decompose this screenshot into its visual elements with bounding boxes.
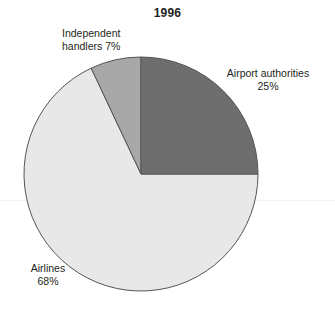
slice-label-airlines-line2: 68% xyxy=(6,275,90,288)
pie-chart-figure: 1996 Independent handlers 7% Airport aut… xyxy=(0,0,335,310)
slice-label-independent-handlers-line1: Independent xyxy=(62,27,120,40)
slice-label-independent-handlers: Independent handlers 7% xyxy=(62,27,120,53)
slice-label-airport-authorities-line2: 25% xyxy=(204,80,332,93)
slice-label-airlines-line1: Airlines xyxy=(6,262,90,275)
slice-label-airlines: Airlines 68% xyxy=(6,262,90,288)
slice-label-airport-authorities-line1: Airport authorities xyxy=(204,67,332,80)
chart-title: 1996 xyxy=(0,6,335,20)
slice-label-independent-handlers-line2: handlers 7% xyxy=(62,40,120,53)
slice-label-airport-authorities: Airport authorities 25% xyxy=(204,67,332,93)
